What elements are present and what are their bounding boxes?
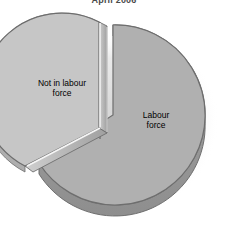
pie-chart-graphic [0,0,228,226]
pie-chart-figure: April 2006 [0,0,228,226]
